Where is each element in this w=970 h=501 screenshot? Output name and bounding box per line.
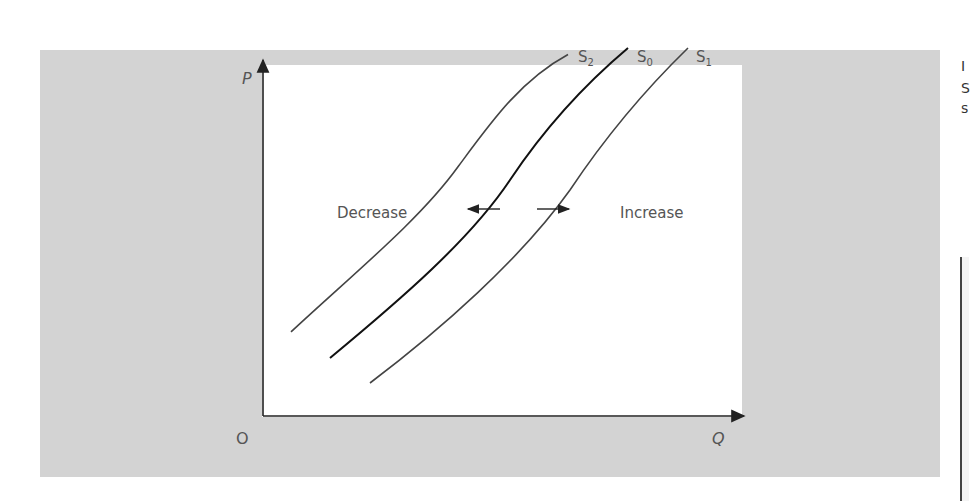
label-s2: S2 <box>578 48 594 68</box>
y-axis-label: P <box>242 69 252 88</box>
curve-s0 <box>330 48 628 358</box>
label-s0: S0 <box>637 48 653 68</box>
clipped-text-fragment: s <box>961 100 968 116</box>
clipped-text-fragment: I <box>961 58 965 74</box>
curve-s2 <box>291 54 568 331</box>
label-s1: S1 <box>696 48 712 68</box>
origin-label: O <box>236 429 249 448</box>
clipped-text-fragment: S <box>961 80 970 96</box>
decrease-label: Decrease <box>337 204 407 222</box>
increase-label: Increase <box>620 204 683 222</box>
clipped-side-box <box>960 257 969 501</box>
x-axis-label: Q <box>712 429 725 448</box>
